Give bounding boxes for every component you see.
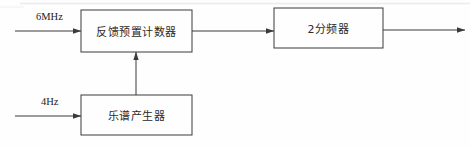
block-label-feedback-preset-counter: 反馈预置计数器 bbox=[81, 10, 192, 52]
signal-label-clock-in: 6MHz bbox=[36, 11, 63, 22]
block-label-divide-by-2: 2分频器 bbox=[274, 8, 383, 48]
block-label-score-generator: 乐谱产生器 bbox=[81, 95, 192, 135]
signal-label-note-clock-in: 4Hz bbox=[41, 96, 59, 107]
diagram-vector-layer bbox=[0, 0, 470, 148]
block-diagram-canvas: 反馈预置计数器 2分频器 乐谱产生器 6MHz 4Hz bbox=[0, 0, 470, 148]
